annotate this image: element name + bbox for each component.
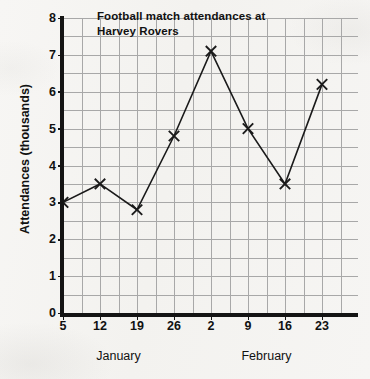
chart-page: 012345678 5121926291623 JanuaryFebruary … [0, 0, 370, 379]
x-tick-labels: 5121926291623 [0, 320, 370, 336]
y-tick-label: 7 [40, 49, 56, 62]
x-tick-label: 23 [307, 320, 337, 333]
y-axis-title: Attendances (thousands) [18, 59, 32, 259]
y-tick-label: 4 [40, 160, 56, 173]
y-tick-label: 8 [40, 12, 56, 25]
month-label: February [222, 350, 312, 363]
chart-title: Football match attendances at Harvey Rov… [97, 9, 265, 39]
x-tick-label: 9 [233, 320, 263, 333]
y-tick-label: 0 [40, 307, 56, 320]
month-label: January [74, 350, 164, 363]
x-tick-label: 26 [159, 320, 189, 333]
y-tick-label: 3 [40, 196, 56, 209]
y-tick-label: 1 [40, 270, 56, 283]
x-tick-label: 12 [85, 320, 115, 333]
y-tick-label: 2 [40, 233, 56, 246]
y-tick-label: 6 [40, 86, 56, 99]
x-tick-label: 2 [196, 320, 226, 333]
x-tick-label: 16 [270, 320, 300, 333]
chart-title-line-2: Harvey Rovers [97, 24, 265, 39]
y-axis-title-wrap: Attendances (thousands) [0, 0, 30, 379]
month-group-labels: JanuaryFebruary [0, 350, 370, 366]
x-tick-label: 5 [48, 320, 78, 333]
x-tick-label: 19 [122, 320, 152, 333]
y-tick-label: 5 [40, 123, 56, 136]
chart-title-line-1: Football match attendances at [97, 9, 265, 24]
